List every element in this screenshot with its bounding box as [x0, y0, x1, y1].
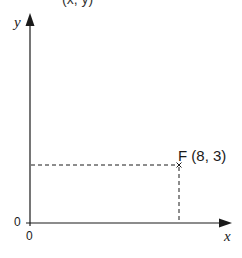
y-axis-label: y [14, 15, 21, 30]
y-axis-arrow-icon [26, 13, 35, 26]
x-origin-label: 0 [26, 230, 33, 242]
point-f-label: F (8, 3) [178, 148, 226, 163]
y-origin-label: 0 [14, 216, 21, 228]
coordinate-plane [0, 0, 242, 258]
x-axis-label: x [224, 229, 231, 244]
x-axis-arrow-icon [219, 219, 232, 228]
